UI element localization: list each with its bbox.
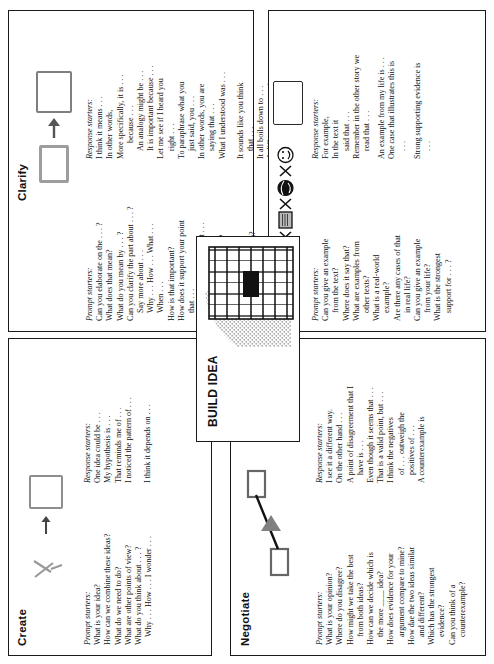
diagram-canvas: Goal: Students independently build up id… <box>0 0 494 664</box>
prompt-line: other texts? <box>362 171 372 321</box>
fortify-response-starters: Response starters: For example, In the t… <box>311 11 433 159</box>
quadrant-title-create: Create <box>16 609 28 646</box>
response-line: One idea could be . . . <box>93 341 103 483</box>
prompt-line: counterexample? <box>458 493 468 645</box>
response-label: Response starters: <box>311 11 321 159</box>
prompt-line: What is your opinion? <box>325 493 335 645</box>
response-line: positives of . . . <box>407 339 417 483</box>
prompt-line: from the text? <box>331 171 341 321</box>
build-idea-center: BUILD IDEA <box>196 236 300 442</box>
quadrant-create: Create Prompt starters: What is your ide… <box>8 338 212 656</box>
prompt-line: Are there any cases of that <box>393 171 403 321</box>
prompt-line: Can you think of a <box>448 493 458 645</box>
response-line: It sounds like you think <box>236 13 246 159</box>
response-line: Let me see if I heard you <box>156 13 166 159</box>
response-label: Response starters: <box>315 339 325 483</box>
response-line: It is important because . . . <box>146 13 156 159</box>
prompt-line: How does it support your point <box>177 171 187 321</box>
response-line: That is a valid point, but . . . <box>376 339 386 483</box>
speech-box-icon-create <box>29 475 63 509</box>
prompt-line: What do you mean by . . . ? <box>116 171 126 321</box>
prompt-line: When . . . <box>156 171 166 321</box>
prompt-line: Why . . . How . . . What . . . <box>146 171 156 321</box>
scribble-icon <box>31 541 65 581</box>
response-line: A point of disagreement that I <box>346 339 356 483</box>
response-line: have is . . . <box>356 339 366 483</box>
response-line: Strong supporting evidence is <box>413 11 423 159</box>
response-line: said that . . . <box>342 11 352 159</box>
response-line: My hypothesis is . . . <box>103 341 113 483</box>
prompt-line: from both ideas? <box>356 493 366 645</box>
prompt-line: Can you give an example <box>413 171 423 321</box>
response-line: In other words, you are <box>197 13 207 159</box>
newspaper-icon <box>279 212 292 228</box>
prompt-line: What do you think about . . . ? <box>134 495 144 645</box>
response-line: It all boils down to . . . <box>256 13 266 159</box>
response-line: An analogy might be . . . <box>136 13 146 159</box>
response-line: One case that illustrates this is <box>387 11 397 159</box>
prompt-line: How can we decide which is <box>366 493 376 645</box>
negotiate-response-starters: Response starters: I see it a different … <box>315 339 427 483</box>
response-line: That reminds me of . . . <box>114 341 124 483</box>
response-line: An example from my life is . . . <box>377 11 387 159</box>
response-line: that . . . <box>246 13 256 159</box>
response-line: I think the negatives <box>386 339 396 483</box>
prompt-line: in real life? <box>403 171 413 321</box>
prompt-label: Prompt starters: <box>311 171 321 321</box>
response-line: Remember in the other story we <box>352 11 362 159</box>
prompt-line: the more ____ idea? <box>376 493 386 645</box>
prompt-line: What is the strongest <box>433 171 443 321</box>
clarify-response-starters: Response starters: I think it means . . … <box>85 13 287 159</box>
prompt-line: What is your idea? <box>93 495 103 645</box>
fortify-prompt-starters: Prompt starters: Can you give an example… <box>311 171 454 321</box>
prompt-line: What is a real-world <box>372 171 382 321</box>
prompt-line: example? <box>382 171 392 321</box>
prompt-line: How is that important? <box>167 171 177 321</box>
prompt-line: How can we combine these ideas? <box>103 495 113 645</box>
response-line: . . . <box>398 11 408 159</box>
response-line: read that . . . <box>362 11 372 159</box>
prompt-line: Why . . . How . . . I wonder . . . <box>144 495 154 645</box>
quadrant-title-negotiate: Negotiate <box>239 592 251 646</box>
speech-box-icon-clarify-right <box>36 71 72 113</box>
prompt-line: How dae the two ideas similar <box>407 493 417 645</box>
response-line: What I understood was . . . <box>218 13 228 159</box>
response-line: For example, <box>321 11 331 159</box>
prompt-line: Where do you disagree? <box>335 493 345 645</box>
response-line: In other words, <box>105 13 115 159</box>
prompt-line: from your life? <box>423 171 433 321</box>
response-line: I think it depends on . . . <box>143 341 153 483</box>
response-line: right . . . <box>167 13 177 159</box>
negotiate-prompt-starters: Prompt starters: What is your opinion? W… <box>315 493 468 645</box>
response-line: More specifically, it is . . . <box>116 13 126 159</box>
arrow-right-icon <box>40 515 52 535</box>
prompt-line: How might we take the best <box>346 493 356 645</box>
response-line: saying that . . . <box>207 13 217 159</box>
brick-wall-icon <box>203 241 295 349</box>
prompt-line: Can you give an example <box>321 171 331 321</box>
response-line: To paraphrase what you <box>177 13 187 159</box>
prompt-line: What do we need to do? <box>114 495 124 645</box>
quadrant-title-clarify: Clarify <box>16 164 28 201</box>
response-line: because . . . <box>126 13 136 159</box>
prompt-line: Can you clarify the part about . . . ? <box>126 171 136 321</box>
arrow-right-icon-clarify <box>45 117 63 139</box>
response-line: Even though it seems that . . . <box>366 339 376 483</box>
response-label: Response starters: <box>85 13 95 159</box>
response-line: In the text it <box>331 11 341 159</box>
prompt-line: What are examples from <box>352 171 362 321</box>
prompt-line: What does that mean? <box>105 171 115 321</box>
prompt-label: Prompt starters: <box>315 493 325 645</box>
prompt-line: Which has the strongest <box>427 493 437 645</box>
response-label: Response starters: <box>83 341 93 483</box>
prompt-line: argument compare to mine? <box>397 493 407 645</box>
response-line: I think it means . . . <box>95 13 105 159</box>
prompt-line: Can you elaborate on the . . . ? <box>95 171 105 321</box>
negotiate-connector-icon <box>245 467 295 577</box>
response-line: . . . <box>423 11 433 159</box>
prompt-label: Prompt starters: <box>85 171 95 321</box>
response-line: I noticed the pattern of . . . <box>124 341 134 483</box>
globe-icon <box>278 181 293 196</box>
prompt-line: evidence? <box>437 493 447 645</box>
speech-box-icon-clarify-left <box>39 145 69 183</box>
